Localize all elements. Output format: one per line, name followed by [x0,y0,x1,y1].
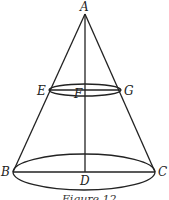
label-f: F [73,87,83,101]
label-b: B [0,165,10,179]
label-a: A [79,0,89,14]
cone-diagram: A E F G B D C Figure 12 [0,0,169,200]
label-d: D [79,174,90,188]
figure-caption: Figure 12 [61,193,117,200]
label-e: E [36,84,46,98]
label-g: G [124,84,134,98]
label-c: C [158,165,167,179]
slant-line-ac [85,14,155,172]
